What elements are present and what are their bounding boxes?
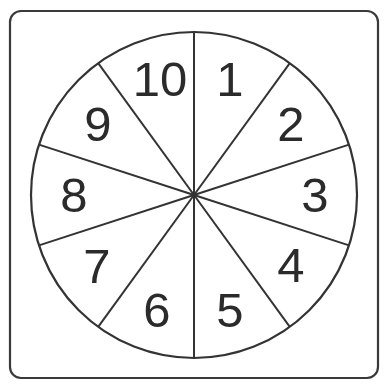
segment-label-1: 1 (216, 52, 243, 106)
segment-label-6: 6 (143, 283, 170, 337)
segment-label-5: 5 (216, 283, 243, 337)
segment-label-9: 9 (84, 97, 111, 151)
segment-label-8: 8 (60, 168, 87, 222)
segment-label-4: 4 (277, 238, 304, 292)
spinner-wheel: 1 2 3 4 5 6 7 8 9 10 (31, 32, 357, 358)
segment-label-7: 7 (83, 239, 110, 293)
spinner-diagram: 1 2 3 4 5 6 7 8 9 10 (0, 0, 385, 387)
segment-label-2: 2 (277, 97, 304, 151)
segment-label-10: 10 (133, 52, 188, 106)
segment-label-3: 3 (301, 168, 328, 222)
